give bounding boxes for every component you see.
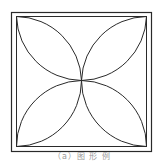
four-petal-figure <box>0 0 164 164</box>
petals <box>17 17 147 147</box>
petal-top-right <box>82 17 147 81</box>
petal-bottom-right <box>81 81 146 147</box>
petal-top-left <box>17 17 82 81</box>
figure-caption: （a）图 形 例 <box>0 150 164 161</box>
petal-bottom-left <box>17 81 82 147</box>
